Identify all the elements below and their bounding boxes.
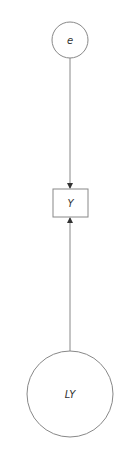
node-e-label: e — [67, 35, 73, 46]
node-ly: LY — [27, 351, 113, 437]
node-y: Y — [53, 189, 88, 217]
path-diagram: e Y LY — [0, 0, 128, 451]
node-e: e — [52, 22, 88, 58]
node-y-label: Y — [67, 198, 74, 209]
node-ly-label: LY — [65, 389, 77, 400]
